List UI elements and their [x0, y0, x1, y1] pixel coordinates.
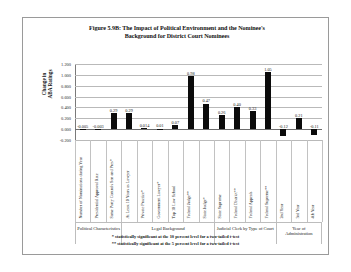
group-label-line-1: Judicial Clerk by Type of Court [215, 226, 276, 231]
group-label: Judicial Clerk by Type of Court [215, 226, 276, 231]
category-separator [152, 140, 153, 222]
category-separator [75, 140, 76, 222]
category-separator [137, 140, 138, 222]
bar[interactable] [80, 129, 86, 130]
figure-frame: Figure 5.9B: The Impact of Political Env… [22, 17, 329, 255]
plot-area: -0.005-0.0030.290.290.0140.010.070.980.4… [75, 64, 322, 140]
group-label: Legal Background [122, 226, 214, 231]
page-title: Figure 5.9B: The Impact of Political Env… [41, 24, 313, 40]
category-separator [214, 140, 215, 222]
bar[interactable] [157, 129, 163, 130]
group-label-line-1: Political Characteristics [76, 226, 121, 231]
category-separator [106, 140, 107, 222]
category-label: Number of Nominations during Year [80, 157, 85, 219]
category-label: Government Lawyer* [157, 182, 162, 219]
bar-value-label: 0.29 [118, 108, 140, 113]
bar[interactable] [219, 115, 225, 129]
bar[interactable] [250, 111, 256, 129]
bar-value-label: 0.33 [242, 106, 264, 111]
bar[interactable] [311, 129, 317, 135]
bar[interactable] [95, 129, 101, 130]
bar[interactable] [188, 76, 194, 129]
bar[interactable] [296, 118, 302, 129]
y-axis-tick-label: 0.800 [61, 83, 71, 88]
bar-value-label: 0.07 [164, 120, 186, 125]
category-separator [121, 140, 122, 222]
category-label: Federal Appeals [250, 192, 255, 219]
category-separator [199, 140, 200, 222]
category-label: State Supreme [219, 195, 224, 219]
y-axis-tick-label: 0.600 [61, 94, 71, 99]
category-label-band: Number of Nominations during YearPreside… [75, 140, 322, 222]
y-axis-tick-label: 1.000 [61, 72, 71, 77]
category-label: 2nd Year [281, 204, 286, 219]
y-axis-tick-labels: 1.2001.0000.8000.6000.4000.2000.000-0.20… [47, 64, 73, 140]
bar[interactable] [234, 107, 240, 129]
chart-title-line-2: Background for District Court Nominees [41, 32, 313, 40]
gridline [75, 64, 322, 65]
footnote-two-star: ** statistically significant at the 5 pe… [23, 241, 328, 247]
category-label: Federal Supreme** [265, 186, 270, 219]
bar-value-label: 0.98 [180, 71, 202, 76]
category-label: State Judge* [203, 198, 208, 219]
category-separator [322, 140, 323, 222]
bar[interactable] [265, 72, 271, 129]
category-label: Private Practice* [142, 191, 147, 220]
bar-value-label: 0.26 [211, 110, 233, 115]
category-label: At Least 10 Years as Lawyer [126, 171, 131, 219]
category-label: Federal Judge** [188, 191, 193, 219]
category-separator [245, 140, 246, 222]
bar[interactable] [111, 113, 117, 129]
y-axis-tick-label: 0.000 [61, 127, 71, 132]
category-label: Presidential Approval Rate [95, 174, 100, 219]
group-label: Political Characteristics [76, 226, 121, 231]
gridline [75, 97, 322, 98]
category-label: Top 10 Law School [172, 186, 177, 219]
category-separator [229, 140, 230, 222]
bar[interactable] [203, 104, 209, 130]
y-axis-tick-label: 1.200 [61, 62, 71, 67]
category-separator [183, 140, 184, 222]
y-axis-tick-label: -0.200 [60, 138, 71, 143]
bar-value-label: 1.05 [257, 67, 279, 72]
category-separator [260, 140, 261, 222]
category-separator [291, 140, 292, 222]
bar-value-label: -0.12 [272, 124, 294, 129]
category-separator [168, 140, 169, 222]
y-axis-tick-label: 0.400 [61, 105, 71, 110]
bar[interactable] [141, 128, 147, 129]
group-label-line-1: Legal Background [122, 226, 214, 231]
category-separator [276, 140, 277, 222]
bar[interactable] [172, 125, 178, 129]
bar[interactable] [126, 113, 132, 129]
bar[interactable] [280, 129, 286, 136]
category-label: 4th Year [311, 205, 316, 219]
footnotes: * statistically significant at the 10 pe… [23, 234, 328, 247]
bar-value-label: 0.21 [288, 113, 310, 118]
chart-title-line-1: Figure 5.9B: The Impact of Political Env… [41, 24, 313, 32]
category-label: Federal District** [234, 189, 239, 219]
bar-value-label: 0.47 [195, 98, 217, 103]
bar-value-label: -0.11 [303, 124, 325, 129]
category-separator [90, 140, 91, 222]
bar-value-label: -0.003 [87, 124, 109, 129]
category-label: 3rd Year [296, 205, 301, 219]
category-separator [307, 140, 308, 222]
gridline [75, 86, 322, 87]
y-axis-tick-label: 0.200 [61, 116, 71, 121]
category-label: Same Party Controls Sen and Pres* [111, 160, 116, 219]
